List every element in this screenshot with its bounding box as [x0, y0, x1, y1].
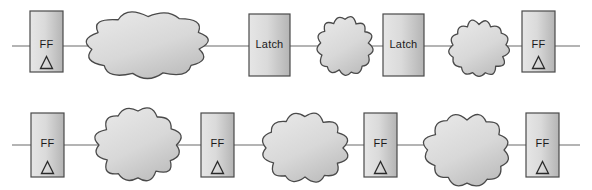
latch-label: Latch — [390, 38, 418, 50]
latch-2[interactable]: Latch — [383, 14, 424, 76]
ff-label: FF — [40, 38, 54, 50]
cloud-shape — [86, 12, 208, 79]
cloud-2 — [317, 17, 373, 76]
cloud-layer — [86, 12, 509, 186]
cloud-shape — [449, 20, 510, 76]
ff-4[interactable]: FF — [201, 113, 234, 177]
ff-label: FF — [211, 137, 225, 149]
latch-label: Latch — [256, 38, 284, 50]
cloud-shape — [263, 113, 348, 182]
cloud-5 — [263, 113, 348, 182]
ff-6[interactable]: FF — [526, 113, 559, 177]
cloud-shape — [423, 115, 508, 186]
ff-5[interactable]: FF — [364, 113, 397, 177]
ff-label: FF — [374, 137, 388, 149]
cloud-shape — [317, 17, 373, 76]
ff-label: FF — [41, 137, 55, 149]
cloud-4 — [95, 108, 181, 181]
ff-label: FF — [536, 137, 550, 149]
cloud-1 — [86, 12, 208, 79]
cloud-6 — [423, 115, 508, 186]
ff-1[interactable]: FF — [30, 11, 63, 72]
cloud-shape — [95, 108, 181, 181]
circuit-canvas: FFLatchLatchFFFFFFFFFF — [0, 0, 592, 190]
ff-3[interactable]: FF — [31, 113, 64, 177]
latch-1[interactable]: Latch — [249, 14, 290, 76]
ff-label: FF — [532, 38, 546, 50]
circuit-diagram: FFLatchLatchFFFFFFFFFF — [0, 0, 592, 190]
ff-2[interactable]: FF — [522, 11, 555, 72]
cloud-3 — [449, 20, 510, 76]
